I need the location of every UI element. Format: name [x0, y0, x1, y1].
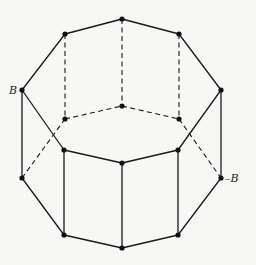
- vertex-dot-b3: [175, 232, 180, 237]
- visible-edge: [178, 90, 221, 150]
- hidden-edge: [22, 119, 65, 178]
- vertex-dot-t5: [61, 147, 66, 152]
- vertex-dot-h1: [176, 116, 181, 121]
- label-neg-b: –B: [225, 172, 239, 185]
- hidden-edge: [122, 106, 179, 119]
- vertex-dot-b5: [61, 232, 66, 237]
- hidden-edge: [65, 106, 122, 119]
- visible-edge: [22, 34, 65, 90]
- vertex-dot-t1: [176, 31, 181, 36]
- vertex-dot-b4: [119, 245, 124, 250]
- hidden-edge: [179, 119, 221, 178]
- visible-edge: [122, 19, 179, 34]
- vertex-dot-t2: [218, 87, 223, 92]
- visible-edge: [178, 178, 221, 235]
- vertex-dot-t7: [62, 31, 67, 36]
- vertex-dot-h7: [62, 116, 67, 121]
- visible-edge: [65, 19, 122, 34]
- vertex-dot-t6: [19, 87, 24, 92]
- visible-edge: [22, 90, 64, 150]
- visible-edge: [64, 150, 122, 163]
- vertex-dot-t3: [175, 147, 180, 152]
- vertex-dot-b6: [19, 175, 24, 180]
- vertex-dot-h0: [119, 103, 124, 108]
- hidden-edges: [22, 19, 221, 178]
- visible-edge: [122, 150, 178, 163]
- visible-edge: [64, 235, 122, 248]
- visible-edge: [179, 34, 221, 90]
- label-b: B: [8, 84, 17, 97]
- vertex-dot-b2: [218, 175, 223, 180]
- vertex-dot-t0: [119, 16, 124, 21]
- visible-edge: [22, 178, 64, 235]
- octagonal-prism-diagram: B –B: [0, 0, 256, 265]
- vertex-dot-t4: [119, 160, 124, 165]
- visible-edge: [122, 235, 178, 248]
